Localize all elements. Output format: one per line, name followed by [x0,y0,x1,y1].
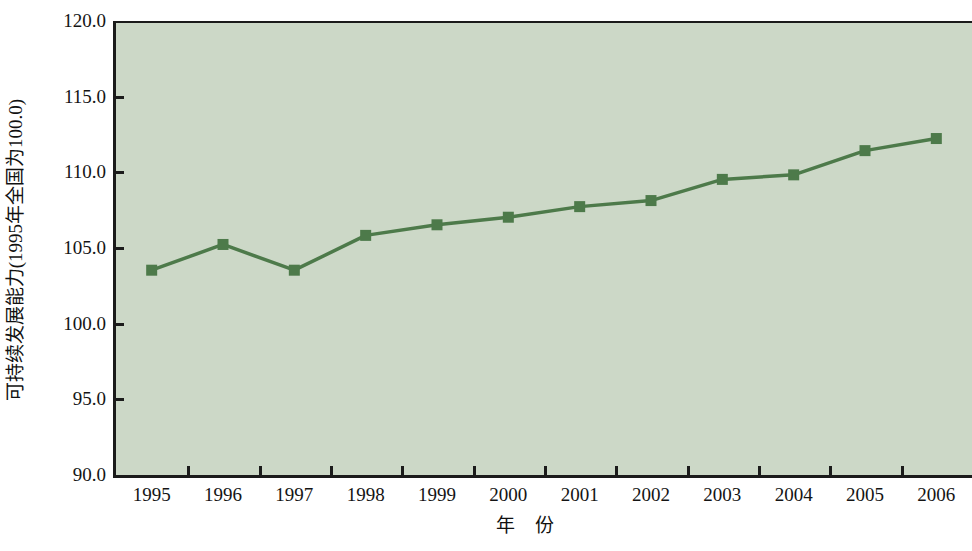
y-axis-tick-label: 90.0 [28,465,106,484]
x-axis-tick-mark [544,466,547,478]
y-axis-tick-mark [113,171,124,174]
chart-figure: 可持续发展能力(1995年全国为100.0) 120.0115.0110.010… [0,0,972,551]
x-axis-tick-mark [615,466,618,478]
y-axis-tick-label: 105.0 [28,238,106,257]
x-axis-title: 年 份 [455,514,595,538]
y-axis-tick-mark [113,323,124,326]
data-point-marker [646,195,657,206]
series-line [152,139,937,271]
x-axis-tick-mark [401,466,404,478]
data-point-marker [931,133,942,144]
data-point-marker [788,169,799,180]
data-point-marker [289,265,300,276]
data-point-marker [218,239,229,250]
x-axis-tick-mark [330,466,333,478]
y-axis-tick-labels: 120.0115.0110.0105.0100.095.090.0 [28,0,106,551]
x-axis-tick-labels: 1995199619971998199920002001200220032004… [113,483,972,509]
x-axis-tick-mark [829,466,832,478]
x-axis-tick-mark [259,466,262,478]
x-axis-tick-mark [187,466,190,478]
x-axis-tick-mark [758,466,761,478]
y-axis-tick-label: 120.0 [28,11,106,30]
data-point-marker [432,219,443,230]
data-point-marker [860,145,871,156]
data-point-marker [146,265,157,276]
data-point-marker [360,230,371,241]
y-axis-tick-label: 100.0 [28,314,106,333]
y-axis-tick-mark [113,96,124,99]
data-point-marker [574,201,585,212]
y-axis-tick-mark [113,247,124,250]
plot-area [113,21,972,478]
y-axis-tick-mark [113,398,124,401]
x-axis-tick-label: 2006 [891,483,972,507]
x-axis-tick-mark [901,466,904,478]
data-point-marker [717,174,728,185]
data-point-marker [503,212,514,223]
series-markers [146,133,942,276]
y-axis-title: 可持续发展能力(1995年全国为100.0) [0,0,26,500]
y-axis-tick-label: 95.0 [28,389,106,408]
x-axis-tick-mark [473,466,476,478]
y-axis-tick-label: 110.0 [28,162,106,181]
line-series-svg [116,23,972,477]
y-axis-tick-label: 115.0 [28,87,106,106]
x-axis-tick-mark [687,466,690,478]
